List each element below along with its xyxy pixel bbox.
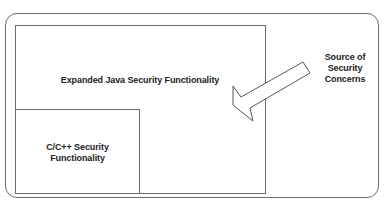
source-line-2: Security	[305, 63, 385, 74]
arrow-icon	[0, 0, 392, 208]
source-line-1: Source of	[305, 52, 385, 63]
source-of-concerns-label: Source of Security Concerns	[305, 52, 385, 85]
source-line-3: Concerns	[305, 74, 385, 85]
